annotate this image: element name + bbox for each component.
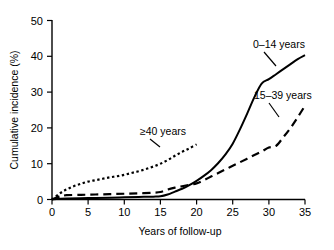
y-axis-tickmarks [47,21,52,200]
x-tick-10: 10 [118,206,130,218]
x-tick-15: 15 [154,206,166,218]
chart-svg: 0 10 20 30 40 50 0 5 10 15 20 25 30 [0,0,334,250]
x-tick-0: 0 [49,206,55,218]
leader-line-0-14-years [264,52,276,66]
y-axis-tick-labels: 0 10 20 30 40 50 [31,15,43,206]
leader-line-15-39-years [269,103,279,117]
leader-line-40-plus-years [150,139,160,147]
x-tick-25: 25 [227,206,239,218]
y-tick-30: 30 [31,86,43,98]
x-axis-title: Years of follow-up [138,225,221,237]
x-tick-5: 5 [85,206,91,218]
y-tick-0: 0 [37,194,43,206]
x-axis-tick-labels: 0 5 10 15 20 25 30 35 [49,206,311,218]
y-tick-10: 10 [31,158,43,170]
x-tick-35: 35 [299,206,311,218]
series-label-15-39-years: 15–39 years [254,89,312,101]
y-tick-20: 20 [31,122,43,134]
x-axis-tickmarks [52,200,305,205]
series-label-40-plus-years: ≥40 years [140,125,186,137]
y-tick-50: 50 [31,15,43,27]
y-axis-title: Cumulative incidence (%) [8,50,20,169]
cumulative-incidence-chart: 0 10 20 30 40 50 0 5 10 15 20 25 30 [0,0,334,250]
series-label-0-14-years: 0–14 years [253,38,305,50]
x-tick-30: 30 [263,206,275,218]
y-tick-40: 40 [31,50,43,62]
x-tick-20: 20 [190,206,202,218]
series-annotations: 0–14 years 15–39 years ≥40 years [140,38,312,147]
